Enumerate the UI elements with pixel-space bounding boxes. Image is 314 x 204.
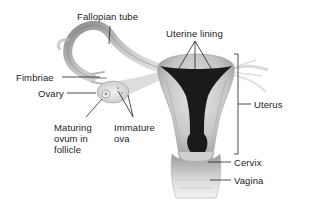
label-fimbriae: Fimbriae (16, 72, 54, 83)
label-maturing-ovum-line3: follicle (54, 144, 92, 155)
label-maturing-ovum: Maturing ovum in follicle (54, 122, 92, 155)
fimbriae-left (92, 72, 106, 84)
leader-immature-ova-b (128, 95, 133, 117)
label-maturing-ovum-line2: ovum in (54, 133, 92, 144)
label-immature-ova-line2: ova (114, 133, 155, 144)
label-fallopian-tube: Fallopian tube (77, 11, 138, 22)
label-immature-ova-line1: Immature (114, 122, 155, 133)
label-ovary: Ovary (38, 88, 64, 99)
label-cervix: Cervix (234, 157, 262, 168)
label-uterine-lining: Uterine lining (166, 28, 223, 39)
fallopian-tube-right (228, 60, 268, 92)
label-uterus: Uterus (254, 99, 283, 110)
label-immature-ova: Immature ova (114, 122, 155, 144)
label-vagina: Vagina (234, 175, 263, 186)
label-maturing-ovum-line1: Maturing (54, 122, 92, 133)
leader-maturing-ovum (86, 99, 102, 117)
